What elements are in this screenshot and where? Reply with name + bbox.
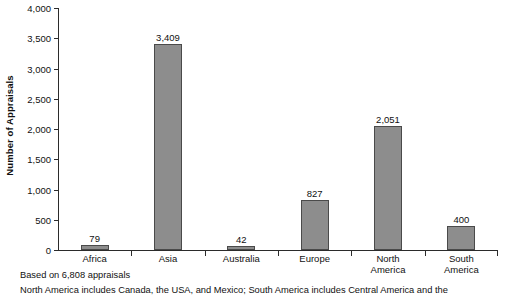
bar-australia[interactable]: 42	[227, 246, 255, 250]
x-axis-category-label: Asia	[159, 253, 177, 264]
y-axis-title-label: Number of Appraisals	[4, 75, 15, 175]
y-axis-tick-label: 3,000	[27, 63, 51, 74]
y-axis-tick-label: 2,000	[27, 124, 51, 135]
bar-value-label: 79	[89, 233, 100, 244]
bar-value-label: 827	[307, 188, 323, 199]
y-axis-tick-label: 500	[35, 214, 51, 225]
x-axis-category-label-line: Asia	[159, 253, 177, 264]
y-axis-tick-label: 3,500	[27, 33, 51, 44]
x-axis-category-label: Australia	[223, 253, 260, 264]
bar-value-label: 42	[236, 234, 247, 245]
x-axis-category-label-line: Africa	[83, 253, 107, 264]
plot-area: 05001,0001,5002,0002,5003,0003,5004,000 …	[58, 8, 498, 250]
y-axis-tick-label: 2,500	[27, 93, 51, 104]
x-axis-category-label: Africa	[83, 253, 107, 264]
bar-asia[interactable]: 3,409	[154, 44, 182, 250]
y-axis-tick-label: 1,000	[27, 184, 51, 195]
y-axis-tick	[54, 250, 58, 251]
footnotes: Based on 6,808 appraisalsNorth America i…	[20, 268, 506, 298]
x-axis-category-label-line: Australia	[223, 253, 260, 264]
x-axis-category-label: Europe	[299, 253, 330, 264]
footnote-line: Based on 6,808 appraisals	[20, 268, 506, 283]
bar-north-america[interactable]: 2,051	[374, 126, 402, 250]
bar-value-label: 400	[453, 214, 469, 225]
bar-europe[interactable]: 827	[301, 200, 329, 250]
y-axis-tick-label: 0	[46, 245, 51, 256]
y-axis-tick-label: 4,000	[27, 3, 51, 14]
bar-value-label: 2,051	[376, 114, 400, 125]
footnote-line: North America includes Canada, the USA, …	[20, 283, 506, 298]
bar-south-america[interactable]: 400	[447, 226, 475, 250]
bar-value-label: 3,409	[156, 32, 180, 43]
bar-africa[interactable]: 79	[81, 245, 109, 250]
chart-page: Number of Appraisals 05001,0001,5002,000…	[0, 0, 506, 301]
y-axis-tick-label: 1,500	[27, 154, 51, 165]
x-axis-category-label-line: North	[371, 253, 406, 264]
bars-layer: 793,409428272,051400	[58, 8, 498, 250]
y-axis-title: Number of Appraisals	[0, 0, 18, 250]
x-axis-category-label-line: Europe	[299, 253, 330, 264]
x-axis-category-label-line: South	[444, 253, 479, 264]
